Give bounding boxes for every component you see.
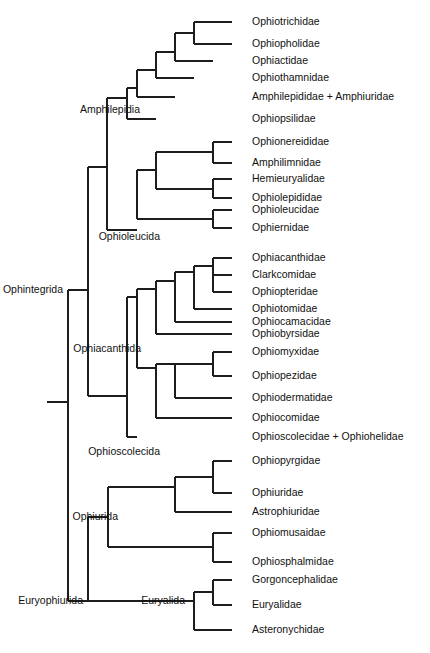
clade-label-ophioscolecida: Ophioscolecida bbox=[88, 445, 160, 457]
clade-labels-group: OphintegridaEuryophiuridaAmphilepidiaOph… bbox=[3, 103, 185, 606]
clade-label-euryalida: Euryalida bbox=[141, 594, 185, 606]
tip-labels-group: OphiotrichidaeOphiopholidaeOphiactidaeOp… bbox=[252, 15, 404, 635]
tip-label-amphilepididae: Amphilepididae + Amphiuridae bbox=[252, 90, 394, 102]
clade-label-ophiacanthida: Ophiacanthida bbox=[73, 342, 141, 354]
tip-label-ophiomusaidae: Ophiomusaidae bbox=[252, 526, 326, 538]
tip-label-ophiodermatidae: Ophiodermatidae bbox=[252, 391, 333, 403]
tip-label-gorgoncephalidae: Gorgoncephalidae bbox=[252, 573, 338, 585]
clade-label-amphilepidia: Amphilepidia bbox=[80, 103, 140, 115]
tip-label-ophiopteridae: Ophiopteridae bbox=[252, 285, 318, 297]
clade-label-ophioleucida: Ophioleucida bbox=[99, 230, 160, 242]
tip-label-ophiosphalmidae: Ophiosphalmidae bbox=[252, 555, 334, 567]
tip-label-hemieuryalidae: Hemieuryalidae bbox=[252, 172, 325, 184]
tip-label-ophiopholidae: Ophiopholidae bbox=[252, 37, 320, 49]
tip-label-ophiolepididae: Ophiolepididae bbox=[252, 191, 322, 203]
tip-label-ophioleucidae: Ophioleucidae bbox=[252, 203, 319, 215]
clade-label-ophiurida: Ophiurida bbox=[72, 510, 118, 522]
tip-label-ophiuridae: Ophiuridae bbox=[252, 486, 304, 498]
tip-label-amphilimnidae: Amphilimnidae bbox=[252, 156, 321, 168]
tip-label-ophiernidae: Ophiernidae bbox=[252, 221, 309, 233]
tip-label-ophiotomidae: Ophiotomidae bbox=[252, 302, 318, 314]
tip-label-ophioscolecidae: Ophioscolecidae + Ophiohelidae bbox=[252, 430, 404, 442]
tip-label-ophiactidae: Ophiactidae bbox=[252, 54, 308, 66]
tip-label-ophiocomidae: Ophiocomidae bbox=[252, 411, 320, 423]
tip-label-ophiopyrgidae: Ophiopyrgidae bbox=[252, 454, 320, 466]
clade-label-euryophiurida: Euryophiurida bbox=[18, 594, 83, 606]
tip-label-ophiopezidae: Ophiopezidae bbox=[252, 369, 317, 381]
phylogenetic-tree-figure: OphiotrichidaeOphiopholidaeOphiactidaeOp… bbox=[0, 0, 430, 653]
tip-label-ophiothamnidae: Ophiothamnidae bbox=[252, 71, 329, 83]
cladogram-canvas: OphiotrichidaeOphiopholidaeOphiactidaeOp… bbox=[0, 0, 430, 653]
tip-label-ophionereididae: Ophionereididae bbox=[252, 135, 329, 147]
tip-label-asteronychidae: Asteronychidae bbox=[252, 623, 325, 635]
tip-label-ophiobyrsidae: Ophiobyrsidae bbox=[252, 327, 320, 339]
tip-label-ophiocamacidae: Ophiocamacidae bbox=[252, 315, 331, 327]
tip-label-ophiopsilidae: Ophiopsilidae bbox=[252, 112, 316, 124]
tip-label-astrophiuridae: Astrophiuridae bbox=[252, 505, 320, 517]
tip-label-ophiomyxidae: Ophiomyxidae bbox=[252, 345, 319, 357]
tip-label-ophiotrichidae: Ophiotrichidae bbox=[252, 15, 320, 27]
tip-label-ophiacanthidae: Ophiacanthidae bbox=[252, 251, 326, 263]
tip-label-clarkcomidae: Clarkcomidae bbox=[252, 268, 316, 280]
clade-label-ophintegrida: Ophintegrida bbox=[3, 283, 63, 295]
tip-label-euryalidae: Euryalidae bbox=[252, 598, 302, 610]
